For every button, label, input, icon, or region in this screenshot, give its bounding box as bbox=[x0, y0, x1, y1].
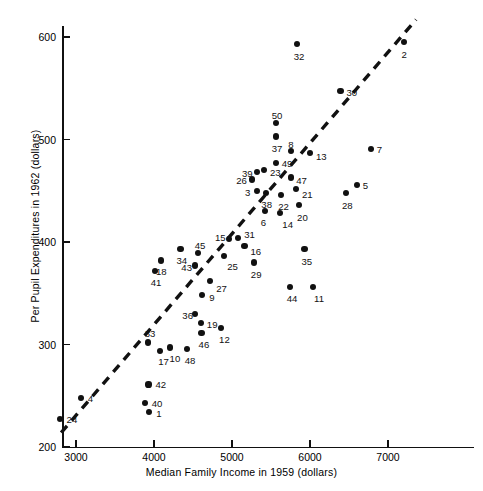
data-point bbox=[177, 246, 183, 252]
data-point-label: 25 bbox=[227, 262, 238, 272]
data-point bbox=[307, 150, 313, 156]
x-axis-tick bbox=[75, 440, 77, 447]
x-axis-tick bbox=[153, 440, 155, 447]
data-point bbox=[273, 133, 279, 139]
data-point bbox=[401, 39, 407, 45]
data-point bbox=[198, 330, 204, 336]
data-point bbox=[241, 243, 247, 249]
data-point bbox=[310, 284, 316, 290]
x-axis-tick-label: 3000 bbox=[53, 452, 99, 463]
data-point-label: 14 bbox=[282, 220, 293, 230]
data-point bbox=[167, 344, 173, 350]
data-point bbox=[226, 236, 232, 242]
scatter-plot-figure: Per Pupil Expenditures in 1962 (dollars)… bbox=[0, 0, 483, 491]
data-point-label: 38 bbox=[261, 200, 272, 210]
y-axis-tick bbox=[63, 36, 70, 38]
y-axis-tick bbox=[63, 446, 70, 448]
data-point bbox=[145, 381, 151, 387]
data-point bbox=[296, 202, 302, 208]
data-point-label: 21 bbox=[302, 190, 313, 200]
y-axis-tick-label: 400 bbox=[22, 237, 56, 248]
data-point-label: 34 bbox=[177, 256, 188, 266]
data-point-label: 49 bbox=[282, 159, 293, 169]
y-axis-line bbox=[62, 26, 64, 448]
data-point bbox=[261, 167, 267, 173]
data-point-label: 17 bbox=[158, 357, 169, 367]
data-point-label: 29 bbox=[251, 270, 262, 280]
data-point-label: 1 bbox=[156, 409, 161, 419]
data-point bbox=[235, 235, 241, 241]
y-axis-tick-label: 200 bbox=[22, 442, 56, 453]
data-point bbox=[221, 253, 227, 259]
data-point-label: 3 bbox=[245, 188, 250, 198]
data-point bbox=[158, 257, 164, 263]
data-point-label: 41 bbox=[151, 278, 162, 288]
data-point bbox=[273, 160, 279, 166]
data-point-label: 31 bbox=[244, 230, 255, 240]
data-point bbox=[294, 41, 300, 47]
data-point bbox=[288, 174, 294, 180]
data-point bbox=[192, 311, 198, 317]
y-axis-tick bbox=[63, 344, 70, 346]
data-point bbox=[354, 182, 360, 188]
data-point bbox=[146, 409, 152, 415]
x-axis-tick-label: 7000 bbox=[365, 452, 411, 463]
x-axis-tick bbox=[231, 440, 233, 447]
data-point-label: 18 bbox=[156, 267, 167, 277]
data-point bbox=[337, 88, 343, 94]
data-point bbox=[343, 190, 349, 196]
data-point-label: 10 bbox=[170, 354, 181, 364]
x-axis-tick bbox=[387, 440, 389, 447]
data-point bbox=[145, 339, 151, 345]
plot-area: 20030040050060030004000500060007000 2444… bbox=[0, 0, 483, 491]
data-point-label: 16 bbox=[250, 247, 261, 257]
data-point-label: 44 bbox=[287, 294, 298, 304]
data-point-label: 13 bbox=[316, 152, 327, 162]
data-point-label: 11 bbox=[314, 294, 324, 304]
data-point-label: 50 bbox=[272, 111, 283, 121]
x-axis-tick-label: 6000 bbox=[287, 452, 333, 463]
data-point bbox=[287, 284, 293, 290]
y-axis-tick-label: 600 bbox=[22, 32, 56, 43]
data-point-label: 24 bbox=[67, 415, 78, 425]
data-point-label: 36 bbox=[182, 311, 193, 321]
x-axis-line bbox=[62, 447, 474, 449]
data-point bbox=[195, 250, 201, 256]
y-axis-tick-label: 500 bbox=[22, 135, 56, 146]
y-axis-tick-label: 300 bbox=[22, 340, 56, 351]
data-point-label: 20 bbox=[297, 213, 308, 223]
data-point-label: 9 bbox=[209, 293, 214, 303]
data-point-label: 28 bbox=[342, 201, 353, 211]
data-point bbox=[78, 395, 84, 401]
data-point-label: 2 bbox=[401, 50, 406, 60]
data-point-label: 15 bbox=[215, 233, 226, 243]
data-point-label: 6 bbox=[261, 218, 266, 228]
data-point bbox=[254, 169, 260, 175]
data-point-label: 5 bbox=[363, 181, 368, 191]
data-point-label: 33 bbox=[145, 329, 156, 339]
data-point bbox=[198, 320, 204, 326]
y-axis-tick bbox=[63, 139, 70, 141]
data-point-label: 39 bbox=[242, 169, 253, 179]
data-point-label: 22 bbox=[278, 202, 289, 212]
data-point-label: 40 bbox=[152, 399, 163, 409]
data-point-label: 7 bbox=[377, 145, 382, 155]
data-point bbox=[207, 278, 213, 284]
data-point-label: 32 bbox=[294, 52, 305, 62]
data-point-label: 46 bbox=[199, 340, 210, 350]
data-point bbox=[184, 346, 190, 352]
data-point bbox=[251, 259, 257, 265]
data-point bbox=[157, 348, 163, 354]
data-point bbox=[218, 325, 224, 331]
data-point bbox=[199, 292, 205, 298]
data-point-label: 47 bbox=[296, 176, 307, 186]
data-point-label: 30 bbox=[346, 88, 357, 98]
data-point-label: 48 bbox=[185, 356, 196, 366]
data-point-label: 45 bbox=[195, 241, 206, 251]
data-point bbox=[142, 400, 148, 406]
data-point-label: 37 bbox=[272, 144, 283, 154]
data-point bbox=[263, 190, 269, 196]
data-point bbox=[301, 246, 307, 252]
data-point bbox=[293, 186, 299, 192]
data-point-label: 23 bbox=[270, 168, 281, 178]
